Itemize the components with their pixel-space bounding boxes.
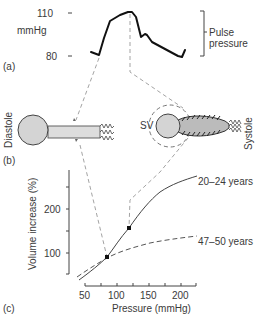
- y-unit-label: mmHg: [17, 25, 46, 36]
- sv-label: SV: [140, 120, 153, 131]
- pressure-waveform-line: [91, 12, 185, 57]
- projection-lines-a-to-b: [76, 14, 183, 120]
- panel-c-label: (c): [3, 303, 15, 314]
- y-tick-label-200: 200: [44, 204, 61, 215]
- x-tick-label-100: 100: [108, 290, 125, 301]
- compliance-chart: [66, 170, 197, 286]
- marker-systolic: [127, 226, 131, 230]
- marker-diastolic: [105, 255, 109, 259]
- pulse-label-line2: pressure: [209, 38, 248, 49]
- x-axis-label: Pressure (mmHg): [112, 303, 191, 314]
- systole-vessel: [149, 105, 241, 147]
- series-label-young: 20–24 years: [198, 176, 253, 187]
- y-tick-label-110: 110: [37, 8, 53, 19]
- y-tick-label-80: 80: [46, 51, 57, 62]
- diastole-vessel: [18, 115, 114, 145]
- y-axis-label: Volume increase (%): [27, 178, 38, 270]
- panel-b-label: (b): [3, 155, 15, 166]
- diastole-label: Diastole: [3, 112, 14, 148]
- y-tick-label-100: 100: [44, 248, 61, 259]
- series-20-24-years: [79, 176, 197, 280]
- series-label-old: 47–50 years: [198, 236, 253, 247]
- projection-lines-b-to-c: [80, 138, 188, 257]
- panel-a-label: (a): [3, 61, 15, 72]
- series-47-50-years: [77, 236, 197, 277]
- pressure-waveform-panel: [68, 11, 207, 57]
- pulse-label-line1: Pulse: [209, 27, 234, 38]
- x-tick-label-50: 50: [79, 290, 90, 301]
- systole-label: Systole: [243, 117, 254, 150]
- x-tick-label-200: 200: [172, 290, 189, 301]
- pulse-pressure-bracket: [200, 11, 207, 56]
- x-tick-label-150: 150: [140, 290, 157, 301]
